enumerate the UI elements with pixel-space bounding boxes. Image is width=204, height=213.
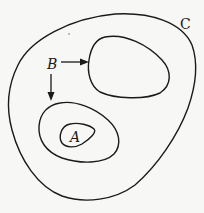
arrowhead-down-icon (48, 92, 55, 101)
region-upper-right-outline (88, 36, 169, 98)
arrow-b-to-upper-region (61, 59, 89, 66)
label-a: A (68, 129, 80, 145)
speck-dot (68, 33, 69, 34)
label-b: B (46, 56, 57, 72)
arrowhead-right-icon (80, 59, 89, 66)
label-c: C (180, 16, 191, 32)
arrow-b-to-lower-region (48, 74, 55, 101)
nested-regions-diagram: C B A (0, 0, 204, 213)
region-c-outline (9, 14, 196, 200)
